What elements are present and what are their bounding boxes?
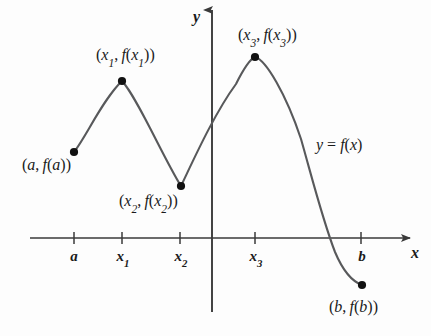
point-a: [70, 148, 78, 156]
label-point-b: (b, f(b)): [329, 299, 378, 315]
label-point-x1: (x1, f(x1)): [96, 47, 155, 67]
label-point-a: (a, f(a)): [22, 157, 71, 173]
point-x1: [118, 77, 126, 85]
point-x3: [251, 53, 259, 61]
label-point-x3: (x3, f(x3)): [238, 27, 297, 47]
function-graph-figure: y x a x1 x2 x3 b (a, f(a)) (x1, f(x1)) (…: [0, 0, 431, 336]
tick-label-b: b: [352, 249, 372, 264]
x-axis-label: x: [411, 245, 419, 261]
tick-label-x2: x2: [169, 249, 193, 267]
point-b: [358, 281, 366, 289]
label-function: y = f(x): [316, 137, 362, 153]
point-x2: [177, 182, 185, 190]
label-point-x2: (x2, f(x2)): [119, 193, 178, 213]
tick-label-x3: x3: [244, 249, 268, 267]
y-axis-label: y: [193, 9, 200, 25]
tick-label-a: a: [64, 249, 84, 264]
tick-label-x1: x1: [111, 249, 135, 267]
